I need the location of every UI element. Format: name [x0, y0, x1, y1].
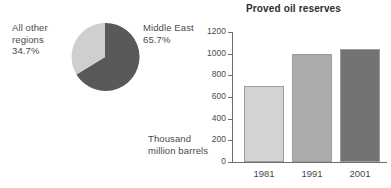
bar-chart-plot-area: 0 200 400 600 800 1000 1200 198 — [232, 32, 387, 162]
pie-chart-svg — [70, 22, 140, 92]
pie-chart-panel: All other regions 34.7% Middle East 65.7… — [0, 0, 196, 188]
y-tick-label-0: 0 — [221, 156, 226, 167]
y-tick-label-200: 200 — [212, 134, 226, 145]
y-tick-1000: 1000 — [232, 54, 236, 55]
y-tick-0: 0 — [232, 162, 236, 163]
pie-label-all-other-regions: All other regions 34.7% — [12, 22, 72, 57]
x-axis-line — [232, 162, 387, 163]
x-axis-label-2001: 2001 — [340, 168, 380, 179]
y-tick-label-1200: 1200 — [207, 26, 226, 37]
bar-2001 — [340, 49, 380, 162]
bar-chart-title: Proved oil reserves — [196, 3, 391, 14]
y-tick-200: 200 — [232, 140, 236, 141]
pie-chart-figure — [70, 22, 140, 92]
y-tick-label-800: 800 — [212, 69, 226, 80]
y-tick-1200: 1200 — [232, 32, 236, 33]
x-axis-label-1991: 1991 — [292, 168, 332, 179]
bar-chart-panel: Proved oil reserves 0 200 400 600 800 10… — [196, 0, 391, 188]
pie-label-middle-east: Middle East 65.7% — [143, 22, 203, 45]
y-tick-600: 600 — [232, 97, 236, 98]
y-tick-400: 400 — [232, 119, 236, 120]
x-axis-label-1981: 1981 — [244, 168, 284, 179]
y-tick-label-400: 400 — [212, 113, 226, 124]
y-tick-label-1000: 1000 — [207, 48, 226, 59]
bar-1981 — [244, 86, 284, 162]
y-tick-800: 800 — [232, 75, 236, 76]
y-tick-label-600: 600 — [212, 91, 226, 102]
bar-1991 — [292, 54, 332, 162]
